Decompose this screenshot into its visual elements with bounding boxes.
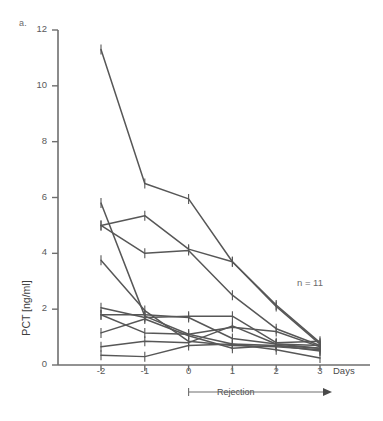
plot-area xyxy=(0,0,383,421)
series-line-patient-2 xyxy=(101,203,320,348)
axes xyxy=(52,30,370,371)
chart-figure: a. n = 11 PCT [ng/ml] Days Rejection 024… xyxy=(0,0,383,421)
series-line-patient-6 xyxy=(101,308,320,343)
rejection-arrowhead xyxy=(323,388,332,396)
rejection-arrow xyxy=(189,388,332,396)
data-series-group xyxy=(101,50,320,358)
series-line-patient-3 xyxy=(101,216,320,344)
